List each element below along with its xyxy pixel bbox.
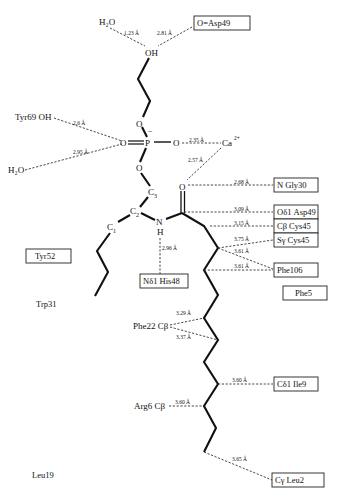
label-phe22: Phe22 Cβ bbox=[133, 321, 169, 331]
label-water-top: H₂O bbox=[99, 17, 116, 27]
label-calcium-charge: 2+ bbox=[234, 135, 240, 141]
bond-c2-c1 bbox=[118, 215, 130, 222]
bond-c3-c2 bbox=[140, 197, 148, 207]
contact-phe22-a bbox=[170, 318, 204, 325]
label-cys45-sg: Sγ Cys45 bbox=[277, 235, 309, 245]
label-ile9: Cδ1 Ile9 bbox=[277, 379, 306, 389]
dist-arg6: 3.60 Å bbox=[175, 398, 190, 405]
dist-cys45-sg: 3.75 Å bbox=[234, 235, 249, 242]
dist-phe106-a: 3.61 Å bbox=[234, 247, 249, 254]
bond-o-p-upper bbox=[142, 127, 147, 137]
label-asp49-od1: Oδ1 Asp49 bbox=[277, 207, 316, 217]
dist-water-left: 2.95 Å bbox=[73, 148, 88, 155]
contact-ca-carbonyl bbox=[187, 148, 221, 180]
dist-leu2: 3.65 Å bbox=[232, 455, 247, 462]
label-calcium: Ca bbox=[222, 138, 232, 148]
label-o-double: O bbox=[120, 138, 127, 148]
label-hydroxyl: OH bbox=[145, 48, 158, 58]
label-phosphorus: P bbox=[145, 138, 150, 148]
label-hydrogen: H bbox=[157, 227, 164, 237]
residue-boxes bbox=[26, 16, 327, 487]
label-trp31: Trp31 bbox=[36, 299, 56, 309]
atom-labels: H₂O OH O P − O O O C 3 C 2 C 1 N H O Ca … bbox=[8, 17, 240, 411]
distance-labels: 1.23 Å 2.81 Å 2.6 Å 2.95 Å 2.35 Å 2.57 Å… bbox=[73, 29, 249, 462]
bond-acyl-chain bbox=[182, 213, 218, 452]
dist-ca-o: 2.35 Å bbox=[189, 136, 204, 143]
label-his48: Nδ1 His48 bbox=[143, 276, 180, 286]
bond-p-o-lower bbox=[140, 148, 146, 162]
dist-asp49-od1: 3.09 Å bbox=[234, 205, 249, 212]
dist-gly30: 2.68 Å bbox=[234, 178, 249, 185]
contact-water-left bbox=[25, 144, 122, 170]
bond-c2-n bbox=[141, 213, 155, 220]
dist-tyr69: 2.6 Å bbox=[73, 119, 85, 126]
dist-his48: 2.96 Å bbox=[162, 244, 177, 251]
dist-phe22-a: 3.29 Å bbox=[176, 309, 191, 316]
label-asp49-o: O=Asp49 bbox=[197, 18, 230, 28]
bond-head-chain bbox=[138, 58, 150, 117]
label-leu19: Leu19 bbox=[32, 470, 54, 480]
contact-tyr69 bbox=[54, 118, 122, 141]
bond-o-c3 bbox=[141, 173, 150, 186]
label-leu2: Cγ Leu2 bbox=[275, 475, 304, 485]
label-arg6: Arg6 Cβ bbox=[134, 401, 166, 411]
dist-phe106-b: 3.61 Å bbox=[234, 262, 249, 269]
dist-ca-carbonyl: 2.57 Å bbox=[188, 156, 203, 163]
label-phe106: Phe106 bbox=[277, 265, 303, 275]
dist-cys45-cb: 3.15 Å bbox=[234, 219, 249, 226]
label-phe5: Phe5 bbox=[295, 288, 312, 298]
dist-ile9: 3.60 Å bbox=[232, 376, 247, 383]
label-tyr69: Tyr69 OH bbox=[15, 112, 52, 122]
residue-labels: O=Asp49 N Gly30 Oδ1 Asp49 Cβ Cys45 Sγ Cy… bbox=[32, 18, 316, 485]
label-water-left: H₂O bbox=[8, 165, 25, 175]
dist-asp49-oh: 2.81 Å bbox=[157, 29, 172, 36]
diagram-svg: H₂O OH O P − O O O C 3 C 2 C 1 N H O Ca … bbox=[0, 0, 342, 494]
label-c3-sub: 3 bbox=[154, 193, 157, 199]
bond-n-carbonyl bbox=[166, 213, 182, 219]
bonds bbox=[95, 58, 218, 452]
label-phosphate-charge: − bbox=[148, 127, 153, 136]
label-c1-sub: 1 bbox=[113, 228, 116, 234]
label-o-upper: O bbox=[136, 119, 143, 129]
bond-left-chain bbox=[95, 233, 110, 296]
label-c2-sub: 2 bbox=[136, 212, 139, 218]
label-cys45-cb: Cβ Cys45 bbox=[277, 221, 311, 231]
label-o-right: O bbox=[173, 138, 180, 148]
label-nitrogen: N bbox=[156, 217, 163, 227]
label-o-lower: O bbox=[136, 163, 143, 173]
label-tyr52: Tyr52 bbox=[35, 251, 55, 261]
label-gly30: N Gly30 bbox=[277, 180, 307, 190]
interaction-diagram: H₂O OH O P − O O O C 3 C 2 C 1 N H O Ca … bbox=[0, 0, 342, 494]
label-carbonyl-o: O bbox=[179, 182, 186, 192]
dist-water-oh: 1.23 Å bbox=[124, 29, 139, 36]
dist-phe22-b: 3.37 Å bbox=[176, 333, 191, 340]
